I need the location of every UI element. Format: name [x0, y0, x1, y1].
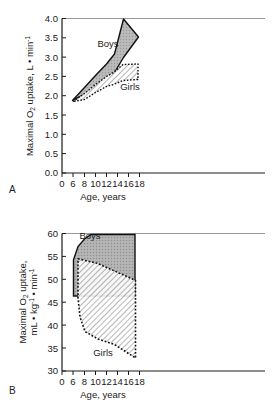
y-tick-label: 2.0 — [45, 90, 58, 101]
panel-b-chart: 60 55 50 45 40 35 30 0 6 — [0, 210, 272, 420]
x-tick-label: 6 — [70, 178, 75, 189]
panel-letter-b: B — [9, 385, 16, 396]
y-tick-label: 30 — [47, 365, 58, 376]
y-tick-label: 40 — [47, 320, 58, 331]
x-tick-label: 12 — [101, 376, 112, 387]
x-axis-title-b: Age, years — [80, 389, 126, 400]
y-axis-title-a: Maximal O2 uptake, L • min-1 — [24, 36, 36, 156]
y-tick-label: 45 — [47, 297, 58, 308]
panel-a: 4.0 3.5 3.0 2.5 2.0 1.5 1.0 0.5 0.0 — [0, 0, 272, 210]
x-tick-labels-b: 0 6 8 10 12 14 16 18 — [59, 376, 144, 387]
y-tick-label: 1.5 — [45, 110, 58, 121]
y-axis-title-a-mid: uptake, L • min — [24, 42, 35, 107]
series-label-boys-a: Boys — [97, 38, 118, 49]
y-axis-title-b-l2-sup2: -1 — [28, 268, 35, 274]
y-tick-label: 4.0 — [45, 13, 58, 24]
series-label-girls-a: Girls — [120, 81, 140, 92]
series-label-girls-b: Girls — [93, 347, 113, 358]
x-tick-label: 14 — [112, 376, 123, 387]
panel-b: 60 55 50 45 40 35 30 0 6 — [0, 210, 272, 420]
y-axis-title-b-l1-pre: Maximal O — [17, 298, 28, 343]
y-tick-labels-b: 60 55 50 45 40 35 30 — [47, 228, 58, 376]
y-tick-label: 55 — [47, 251, 58, 262]
y-tick-label: 3.5 — [45, 32, 58, 43]
y-tick-label: 35 — [47, 343, 58, 354]
x-tick-label: 8 — [82, 376, 87, 387]
x-tick-label: 0 — [59, 178, 64, 189]
y-tick-label: 1.0 — [45, 129, 58, 140]
x-tick-label: 18 — [134, 178, 145, 189]
y-tick-label: 2.5 — [45, 71, 58, 82]
y-tick-labels-a: 4.0 3.5 3.0 2.5 2.0 1.5 1.0 0.5 0.0 — [45, 13, 58, 178]
x-tick-label: 16 — [123, 376, 134, 387]
x-tick-label: 18 — [134, 376, 145, 387]
y-axis-title-b-l2-mid: • min — [28, 274, 39, 298]
x-tick-label: 12 — [101, 178, 112, 189]
y-axis-title-a-pre: Maximal O — [24, 111, 35, 156]
x-tick-label: 0 — [59, 376, 64, 387]
x-tick-label: 10 — [90, 178, 101, 189]
y-axis-title-a-sup: -1 — [24, 36, 31, 42]
y-tick-label: 3.0 — [45, 52, 58, 63]
y-tick-label: 60 — [47, 228, 58, 239]
y-tick-label: 0.5 — [45, 148, 58, 159]
x-tick-labels-a: 0 6 8 10 12 14 16 18 — [59, 178, 144, 189]
x-tick-label: 14 — [112, 178, 123, 189]
y-tick-label: 50 — [47, 274, 58, 285]
x-tick-label: 16 — [123, 178, 134, 189]
x-tick-label: 10 — [90, 376, 101, 387]
y-axis-title-b-l2-pre: mL • kg — [28, 304, 39, 335]
series-label-boys-b: Boys — [79, 230, 100, 241]
figure-container: 4.0 3.5 3.0 2.5 2.0 1.5 1.0 0.5 0.0 — [0, 0, 272, 420]
panel-a-chart: 4.0 3.5 3.0 2.5 2.0 1.5 1.0 0.5 0.0 — [0, 0, 272, 210]
x-tick-label: 6 — [70, 376, 75, 387]
x-ticks-b — [62, 371, 140, 375]
panel-letter-a: A — [9, 184, 16, 195]
y-axis-title-b-line2: mL • kg-1 • min-1 — [28, 268, 39, 335]
x-axis-title-a: Age, years — [80, 191, 126, 202]
y-axis-title-b-l1-post: uptake, — [17, 261, 28, 295]
y-tick-label: 0.0 — [45, 167, 58, 178]
x-ticks-a — [62, 173, 140, 177]
x-tick-label: 8 — [82, 178, 87, 189]
